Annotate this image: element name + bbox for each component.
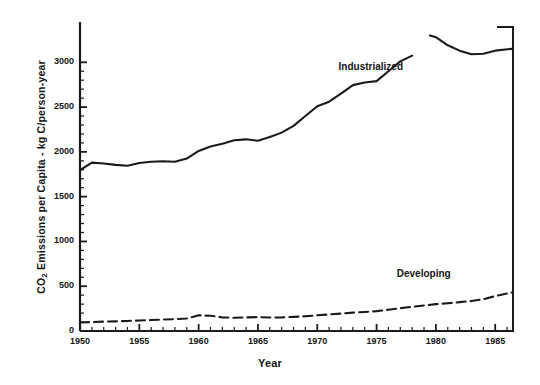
series-lines: [80, 35, 512, 322]
chart-plot-area: [0, 0, 540, 385]
x-axis-tick-label: 1985: [470, 336, 520, 346]
y-axis-tick-label: 2000: [28, 146, 74, 156]
x-axis-tick-label: 1955: [114, 336, 164, 346]
y-axis-tick-label: 1500: [28, 191, 74, 201]
series-path-industrialized: [80, 56, 412, 171]
x-axis-tick-label: 1960: [174, 336, 224, 346]
y-axis-tick-label: 2500: [28, 101, 74, 111]
x-axis-tick-label: 1980: [411, 336, 461, 346]
x-axis-tick-label: 1975: [352, 336, 402, 346]
y-axis-tick-label: 3000: [28, 56, 74, 66]
y-axis-tick-label: 0: [28, 325, 74, 335]
y-axis-title-subscript: 2: [40, 273, 49, 278]
x-axis-tick-label: 1965: [233, 336, 283, 346]
x-axis-title: Year: [0, 357, 540, 369]
axes-group: [80, 22, 514, 331]
y-axis-tick-label: 1000: [28, 235, 74, 245]
x-axis-tick-label: 1950: [55, 336, 105, 346]
series-label-industrialized: Industrialized: [339, 61, 403, 72]
x-axis-tick-label: 1970: [292, 336, 342, 346]
series-path-industrialized-segment-2: [430, 35, 512, 54]
series-label-developing: Developing: [397, 268, 451, 279]
series-path-developing: [80, 292, 512, 322]
y-axis-tick-label: 500: [28, 280, 74, 290]
chart-figure: CO2 Emissions per Capita - kg C/person-y…: [0, 0, 540, 385]
